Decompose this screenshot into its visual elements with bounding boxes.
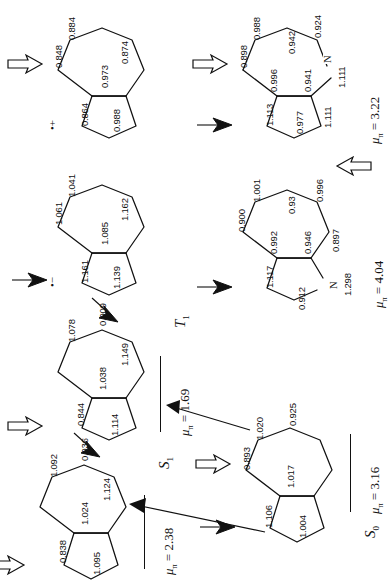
mu-symbol-322: μ bbox=[367, 137, 382, 144]
state-letter-ground: S bbox=[362, 531, 378, 539]
density-322-b: 0.988 bbox=[252, 17, 262, 40]
density-322-f: 0.941 bbox=[303, 69, 313, 92]
mu-equation-triplet: = 1.69 bbox=[177, 389, 192, 422]
dipole-arrow-open-322 bbox=[191, 54, 231, 74]
density-322-e: 0.996 bbox=[269, 69, 279, 92]
dipole-arrow-solid-ground bbox=[198, 518, 238, 536]
density-404-c: 0.996 bbox=[315, 179, 325, 202]
heteroatom-nitrogen-404: N bbox=[329, 280, 340, 290]
density-triplet-five-left: 0.844 bbox=[76, 403, 86, 426]
divider-rule-ground bbox=[350, 434, 351, 512]
mu-equation-singlet: = 2.38 bbox=[161, 528, 176, 561]
state-label-triplet: T1 bbox=[172, 315, 191, 328]
dipole-arrow-open-ground bbox=[194, 454, 234, 474]
density-ground-top2: 1.020 bbox=[255, 417, 265, 440]
density-322-c: 0.924 bbox=[313, 15, 323, 38]
density-322-h: 1.113 bbox=[265, 104, 275, 126]
density-anion-right: 1.162 bbox=[120, 198, 130, 221]
density-cation-right: 0.874 bbox=[120, 41, 130, 64]
density-322-j: 1.111 bbox=[323, 107, 333, 128]
divider-rule-singlet bbox=[144, 495, 145, 569]
density-anion-five-left: 1.161 bbox=[80, 260, 90, 283]
density-cation-center: 0.973 bbox=[100, 65, 110, 88]
mu-equation-ground: = 3.16 bbox=[367, 467, 382, 500]
mu-symbol-singlet: μ bbox=[161, 568, 176, 575]
density-404-i: 1.298 bbox=[343, 273, 353, 296]
mu-subscript-404: π bbox=[380, 297, 389, 301]
density-404-f: 0.946 bbox=[303, 231, 313, 254]
dipole-arrow-open-singlet bbox=[0, 555, 28, 575]
density-ground-right: 0.925 bbox=[288, 403, 298, 426]
density-ground-five-bottom: 1.004 bbox=[298, 515, 308, 538]
density-cation-five-bottom: 0.988 bbox=[112, 109, 122, 132]
density-404-h: 1.117 bbox=[265, 266, 275, 288]
density-322-i: 0.977 bbox=[295, 111, 305, 134]
density-triplet-five-bottom: 1.114 bbox=[110, 414, 120, 436]
divider-rule-triplet bbox=[160, 356, 161, 432]
density-ground-five-left: 1.106 bbox=[264, 505, 274, 528]
density-cation-top2: 0.884 bbox=[67, 17, 77, 40]
density-anion-top2: 1.041 bbox=[67, 174, 77, 197]
density-404-j: 0.912 bbox=[297, 287, 307, 310]
density-singlet-center: 1.024 bbox=[80, 502, 90, 525]
dipole-arrow-open-404 bbox=[333, 156, 373, 176]
density-404-e: 0.992 bbox=[269, 231, 279, 254]
mu-symbol-triplet: μ bbox=[177, 429, 192, 436]
density-404-b: 1.001 bbox=[252, 179, 262, 202]
mu-pi-value-322: μπ = 3.22 bbox=[365, 97, 385, 144]
species-triplet: 1.078 0.909 1.149 1.038 0.844 1.114 T1 μ… bbox=[40, 320, 190, 440]
density-404-g: 0.897 bbox=[331, 229, 341, 252]
density-anion-top: 1.061 bbox=[54, 202, 64, 225]
density-triplet-center: 1.038 bbox=[98, 367, 108, 390]
density-anion-five-bottom: 1.139 bbox=[112, 266, 122, 289]
mu-subscript-ground: π bbox=[376, 503, 385, 507]
mu-symbol-404: μ bbox=[371, 301, 386, 308]
dipole-arrow-solid-triplet bbox=[90, 296, 124, 326]
density-cation-five-left: 0.864 bbox=[80, 103, 90, 126]
state-label-singlet: S1 bbox=[156, 457, 175, 469]
dipole-arrow-solid-322 bbox=[195, 116, 235, 134]
dipole-arrow-solid-anion bbox=[10, 271, 50, 289]
state-sub-triplet: 1 bbox=[181, 315, 191, 320]
density-404-a: 0.900 bbox=[237, 209, 247, 232]
density-singlet-right: 1.124 bbox=[102, 478, 112, 501]
density-322-g: 1.111 bbox=[337, 67, 347, 88]
species-azaazulene-404: N 0.900 1.001 0.996 0.93 0.992 0.946 0.8… bbox=[225, 180, 385, 310]
density-322-a: 0.898 bbox=[239, 45, 249, 68]
state-label-ground: S0 bbox=[362, 526, 381, 538]
density-ground-center: 1.017 bbox=[286, 465, 296, 488]
species-singlet-excited: 1.092 0.936 1.124 1.024 0.838 1.095 S1 μ… bbox=[22, 455, 172, 582]
heteroatom-nitrogen-322: N bbox=[323, 54, 334, 64]
mu-subscript-triplet: π bbox=[186, 425, 195, 429]
density-404-d: 0.93 bbox=[287, 196, 297, 214]
charge-label-radical-cation: •+ bbox=[46, 120, 58, 130]
density-triplet-top2: 1.078 bbox=[67, 319, 77, 342]
density-cation-top: 0.848 bbox=[54, 45, 64, 68]
dipole-arrow-open-triplet bbox=[6, 416, 46, 436]
mu-symbol-ground: μ bbox=[367, 507, 382, 514]
density-singlet-top2: 1.092 bbox=[49, 454, 59, 477]
mu-equation-404: = 4.04 bbox=[371, 261, 386, 294]
species-radical-anion: 1.061 1.041 1.162 1.085 1.161 1.139 •− bbox=[40, 175, 190, 295]
density-singlet-five-left: 0.838 bbox=[58, 540, 68, 563]
state-letter-triplet: T bbox=[172, 320, 188, 328]
state-sub-singlet: 1 bbox=[165, 457, 175, 462]
density-ground-top: 0.893 bbox=[242, 447, 252, 470]
mu-equation-322: = 3.22 bbox=[367, 97, 382, 130]
dipole-arrow-solid-singlet bbox=[72, 431, 106, 461]
dipole-arrow-open-cation bbox=[6, 54, 46, 74]
mu-subscript-322: π bbox=[376, 133, 385, 137]
species-ground-state: 0.893 1.020 0.925 1.017 1.106 1.004 S0 μ… bbox=[228, 418, 378, 548]
density-322-d: 0.942 bbox=[287, 31, 297, 54]
density-singlet-five-bottom: 1.095 bbox=[92, 552, 102, 575]
density-triplet-right: 1.149 bbox=[120, 343, 130, 366]
species-radical-cation: 0.848 0.884 0.874 0.973 0.864 0.988 •+ bbox=[40, 18, 190, 138]
state-sub-ground: 0 bbox=[371, 526, 381, 531]
mu-subscript-singlet: π bbox=[170, 564, 179, 568]
state-letter-singlet: S bbox=[156, 462, 172, 470]
dipole-arrow-solid-404 bbox=[195, 278, 235, 296]
species-azaazulene-322: N 0.898 0.988 0.924 0.942 0.996 0.941 1.… bbox=[225, 18, 385, 148]
density-anion-center: 1.085 bbox=[100, 222, 110, 245]
